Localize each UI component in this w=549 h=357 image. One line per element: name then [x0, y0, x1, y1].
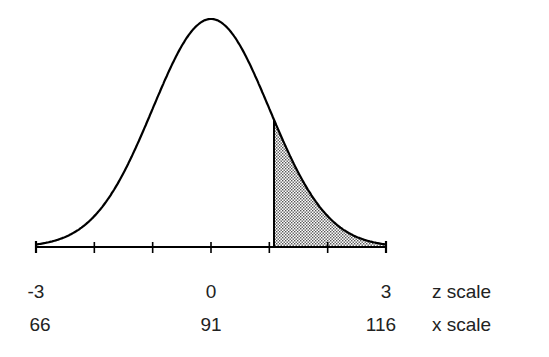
z-tick-label-minus3: -3 [28, 282, 45, 302]
x-tick-label-66: 66 [29, 315, 50, 335]
z-scale-label: z scale [432, 282, 491, 302]
z-tick-label-0: 0 [206, 282, 217, 302]
shaded-tail-area [274, 120, 386, 247]
x-tick-label-91: 91 [200, 315, 221, 335]
x-tick-label-116: 116 [366, 315, 396, 335]
x-scale-label: x scale [432, 315, 491, 335]
normal-distribution-chart [0, 0, 549, 357]
normal-curve [36, 19, 386, 245]
z-tick-label-3: 3 [381, 282, 392, 302]
